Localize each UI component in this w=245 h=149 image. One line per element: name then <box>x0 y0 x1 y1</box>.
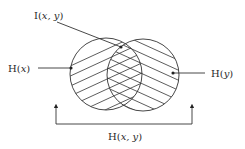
label-mutual-information: I(x, y) <box>34 10 64 21</box>
arrow-mutual-information <box>57 22 121 47</box>
label-entropy-x: H(x) <box>8 63 30 74</box>
label-joint-entropy: H(x, y) <box>108 131 142 142</box>
label-entropy-y: H(y) <box>211 68 233 79</box>
entropy-venn-diagram: I(x, y) H(x) H(y) H(x, y) <box>0 0 245 149</box>
bracket-joint-entropy <box>56 106 192 124</box>
circle-h-y <box>107 39 179 111</box>
